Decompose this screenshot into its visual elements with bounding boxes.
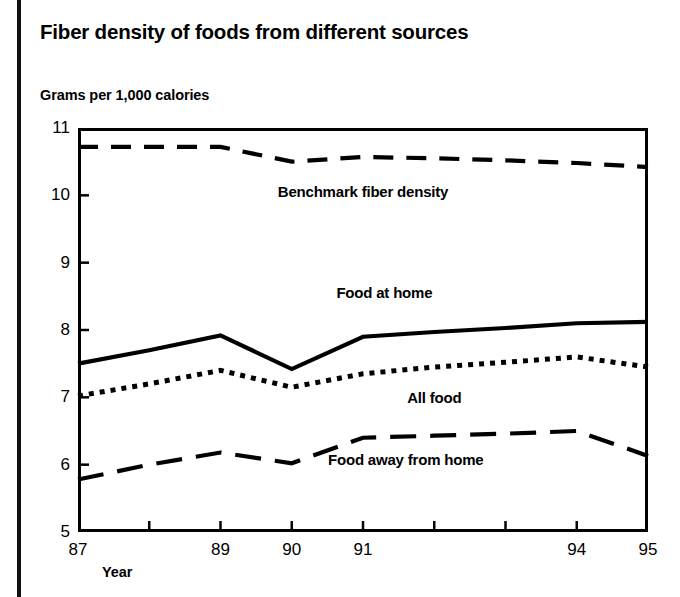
series-label-food-at-home: Food at home	[336, 284, 432, 301]
y-tick-label: 5	[36, 522, 70, 542]
y-tick-label: 7	[36, 387, 70, 407]
y-axis-title: Grams per 1,000 calories	[40, 87, 209, 103]
series-line-food-at-home	[78, 322, 648, 369]
page-title: Fiber density of foods from different so…	[40, 20, 468, 44]
page-left-rule	[17, 0, 21, 597]
x-tick-label: 90	[272, 540, 312, 560]
x-tick-label: 91	[343, 540, 383, 560]
y-tick-label: 11	[36, 118, 70, 138]
y-tick-label: 6	[36, 455, 70, 475]
y-tick-label: 9	[36, 253, 70, 273]
x-tick-label: 87	[58, 540, 98, 560]
series-line-all-food	[78, 357, 648, 396]
x-tick-label: 95	[628, 540, 668, 560]
series-label-benchmark-fiber-density: Benchmark fiber density	[278, 183, 448, 200]
x-tick-label: 89	[201, 540, 241, 560]
x-tick-label: 94	[557, 540, 597, 560]
y-tick-label: 10	[36, 185, 70, 205]
chart-page: Fiber density of foods from different so…	[0, 0, 680, 597]
y-tick-label: 8	[36, 320, 70, 340]
series-label-all-food: All food	[407, 389, 461, 406]
series-label-food-away-from-home: Food away from home	[328, 451, 483, 468]
x-axis-title: Year	[102, 564, 132, 580]
series-line-benchmark-fiber-density	[78, 147, 648, 167]
